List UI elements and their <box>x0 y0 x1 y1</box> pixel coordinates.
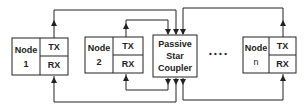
coupler-label: Passive Star Coupler <box>153 39 197 74</box>
node-2-rx: RX <box>113 59 143 70</box>
node-n-tx: TX <box>269 41 296 52</box>
node-1-label: Node 1 <box>12 45 40 70</box>
coupler-line-2: Star <box>153 51 197 62</box>
coupler-line-3: Coupler <box>153 63 197 74</box>
ellipsis: • • • • <box>203 48 233 59</box>
node-2-tx: TX <box>113 41 143 52</box>
node-1-tx: TX <box>40 42 68 53</box>
coupler-line-1: Passive <box>153 39 197 50</box>
node-n-title: Node <box>243 43 269 54</box>
node-n-rx: RX <box>269 59 296 70</box>
node-2-id: 2 <box>85 57 113 68</box>
node-1-title: Node <box>12 45 40 56</box>
node-1-id: 1 <box>12 59 40 70</box>
node-1-rx: RX <box>40 60 68 71</box>
node-n-label: Node n <box>243 43 269 68</box>
node-n-id: n <box>243 57 269 68</box>
node-2-label: Node 2 <box>85 43 113 68</box>
node-2-title: Node <box>85 43 113 54</box>
